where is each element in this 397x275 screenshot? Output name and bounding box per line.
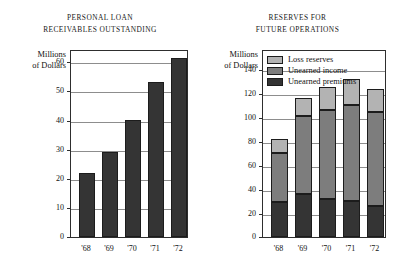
segment-70-loss-reserves — [319, 87, 336, 110]
ytick-right-20: 20 — [228, 210, 256, 218]
xtick-left-72: '72 — [162, 245, 194, 253]
stacked-bar-71 — [343, 79, 360, 237]
gridline-left-50 — [71, 92, 187, 93]
chart-panel-reserves: RESERVES FOR FUTURE OPERATIONS Millions … — [198, 0, 397, 275]
ytick-mark-left-50 — [67, 91, 70, 92]
chart-title-right-line2: FUTURE OPERATIONS — [198, 24, 397, 36]
ytick-left-0: 0 — [38, 233, 64, 241]
ytick-mark-left-10 — [67, 208, 70, 209]
stacked-bar-72 — [367, 89, 384, 237]
segment-72-unearned-income — [367, 112, 384, 206]
legend-swatch-loss-reserves — [267, 56, 283, 64]
ytick-mark-right-140 — [259, 70, 262, 71]
legend-swatch-unearned-premiums — [267, 78, 283, 86]
gridline-left-60 — [71, 63, 187, 64]
ytick-left-30: 30 — [38, 146, 64, 154]
bar-70 — [125, 120, 141, 237]
segment-71-unearned-income — [343, 105, 360, 201]
segment-70-unearned-income — [319, 110, 336, 199]
ytick-mark-right-0 — [259, 237, 262, 238]
segment-71-unearned-premiums — [343, 201, 360, 237]
bar-68 — [79, 173, 95, 238]
segment-69-loss-reserves — [295, 98, 312, 116]
ytick-mark-right-100 — [259, 118, 262, 119]
two-chart-figure: PERSONAL LOAN RECEIVABLES OUTSTANDING Mi… — [0, 0, 397, 275]
bar-72 — [171, 58, 187, 237]
ytick-right-60: 60 — [228, 162, 256, 170]
segment-68-unearned-premiums — [271, 202, 288, 237]
chart-title-left-line1: PERSONAL LOAN — [0, 12, 200, 24]
legend-label-unearned-income: Unearned income — [288, 65, 347, 76]
ytick-mark-left-40 — [67, 121, 70, 122]
plot-area-left — [70, 50, 188, 238]
ytick-mark-right-120 — [259, 94, 262, 95]
plot-area-right: Loss reserves Unearned income Unearned p… — [262, 50, 386, 238]
xtick-right-72: '72 — [358, 245, 391, 253]
ytick-mark-right-20 — [259, 214, 262, 215]
legend-label-unearned-premiums: Unearned premiums — [288, 76, 356, 87]
legend-item-loss-reserves: Loss reserves — [267, 54, 356, 65]
chart-title-left: PERSONAL LOAN RECEIVABLES OUTSTANDING — [0, 12, 200, 35]
ytick-left-40: 40 — [38, 117, 64, 125]
y-axis-caption-right-line1: Millions — [200, 50, 258, 61]
segment-69-unearned-income — [295, 116, 312, 194]
ytick-mark-right-60 — [259, 166, 262, 167]
chart-title-right: RESERVES FOR FUTURE OPERATIONS — [198, 12, 397, 35]
segment-70-unearned-premiums — [319, 199, 336, 237]
stacked-bar-69 — [295, 98, 312, 237]
ytick-right-140: 140 — [228, 66, 256, 74]
legend-label-loss-reserves: Loss reserves — [288, 54, 333, 65]
ytick-mark-left-30 — [67, 150, 70, 151]
ytick-right-0: 0 — [228, 233, 256, 241]
ytick-left-10: 10 — [38, 204, 64, 212]
ytick-right-120: 120 — [228, 90, 256, 98]
segment-68-unearned-income — [271, 153, 288, 202]
ytick-right-80: 80 — [228, 138, 256, 146]
legend-item-unearned-income: Unearned income — [267, 65, 356, 76]
chart-title-left-line2: RECEIVABLES OUTSTANDING — [0, 24, 200, 36]
segment-68-loss-reserves — [271, 139, 288, 153]
ytick-mark-left-0 — [67, 237, 70, 238]
ytick-left-50: 50 — [38, 87, 64, 95]
legend-swatch-unearned-income — [267, 67, 283, 75]
ytick-left-60: 60 — [38, 58, 64, 66]
segment-72-loss-reserves — [367, 89, 384, 112]
ytick-mark-left-60 — [67, 62, 70, 63]
ytick-right-40: 40 — [228, 186, 256, 194]
chart-panel-personal-loan: PERSONAL LOAN RECEIVABLES OUTSTANDING Mi… — [0, 0, 200, 275]
legend-right: Loss reserves Unearned income Unearned p… — [267, 54, 356, 88]
bar-69 — [102, 152, 118, 237]
segment-69-unearned-premiums — [295, 194, 312, 237]
bar-71 — [148, 82, 164, 238]
chart-title-right-line1: RESERVES FOR — [198, 12, 397, 24]
stacked-bar-70 — [319, 87, 336, 237]
ytick-mark-right-40 — [259, 190, 262, 191]
segment-72-unearned-premiums — [367, 206, 384, 237]
legend-item-unearned-premiums: Unearned premiums — [267, 76, 356, 87]
ytick-left-20: 20 — [38, 175, 64, 183]
ytick-right-100: 100 — [228, 114, 256, 122]
ytick-mark-right-80 — [259, 142, 262, 143]
stacked-bar-68 — [271, 139, 288, 237]
ytick-mark-left-20 — [67, 179, 70, 180]
